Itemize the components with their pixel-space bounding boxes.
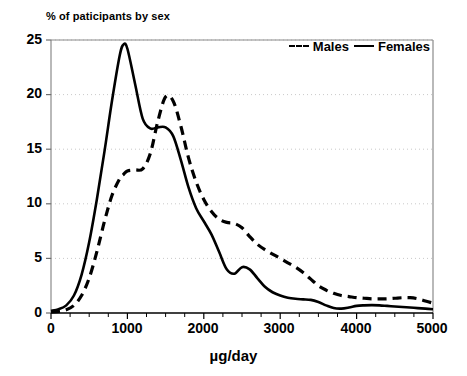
plot-canvas bbox=[0, 0, 467, 376]
plot-frame bbox=[51, 40, 433, 313]
chart-figure: % of paticipants by sex Males Females 25… bbox=[0, 0, 467, 376]
series-line-females bbox=[51, 44, 433, 311]
gridlines bbox=[51, 40, 433, 258]
data-curves bbox=[51, 44, 433, 312]
axis-ticks bbox=[46, 40, 433, 319]
